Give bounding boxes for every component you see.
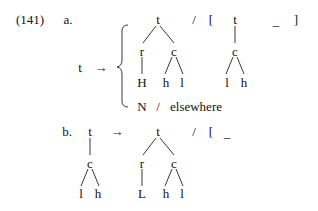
input-node-l: l <box>79 187 83 200</box>
open-bracket: [ <box>209 125 213 138</box>
tree-node-root: t <box>156 13 160 26</box>
input-node-root: t <box>88 125 92 138</box>
context-node-c: c <box>232 45 238 58</box>
tree-node-h: h <box>163 76 170 89</box>
tree-node-r: r <box>140 157 144 170</box>
environment-slash: / <box>192 125 196 138</box>
focus-blank: _ <box>273 14 280 27</box>
arrow-icon: → <box>95 61 108 74</box>
context-node-h: h <box>241 76 248 89</box>
part-b-label: b. <box>62 125 72 138</box>
close-bracket: ] <box>294 13 298 26</box>
arrow-icon: → <box>111 125 124 138</box>
tree-node-h: h <box>163 187 170 200</box>
tree-node-r: r <box>140 45 144 58</box>
tree-node-l: l <box>180 76 184 89</box>
environment-slash: / <box>192 13 196 26</box>
elsewhere-condition: elsewhere <box>170 100 222 113</box>
input-node-h: h <box>95 187 102 200</box>
context-node-root: t <box>233 13 237 26</box>
tree-node-c: c <box>171 157 177 170</box>
tree-node-c: c <box>171 45 177 58</box>
elsewhere-output: N <box>137 100 146 113</box>
tree-node-l: l <box>180 187 184 200</box>
focus-blank: _ <box>224 126 231 139</box>
part-a-input: t <box>78 61 82 74</box>
input-node-c: c <box>87 157 93 170</box>
context-node-l: l <box>225 76 229 89</box>
tree-node-root: t <box>156 125 160 138</box>
tree-node-L: L <box>138 187 146 200</box>
open-bracket: [ <box>209 13 213 26</box>
tree-node-H: H <box>137 76 146 89</box>
curly-brace-icon <box>117 25 128 107</box>
part-a-label: a. <box>63 13 72 26</box>
example-number: (141) <box>16 13 44 26</box>
environment-slash: / <box>156 100 160 113</box>
